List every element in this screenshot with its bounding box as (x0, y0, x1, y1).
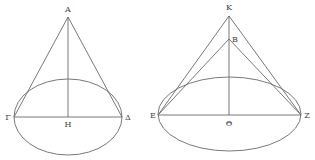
label-apex-a: A (64, 5, 71, 14)
left-cone-edge-a-delta (68, 17, 122, 117)
label-delta: Δ (125, 113, 131, 122)
label-gamma: Γ (5, 113, 11, 122)
label-center-h: H (65, 120, 72, 129)
right-cone-base-ellipse (158, 77, 301, 151)
right-cone-edge-k-z (229, 16, 301, 115)
left-cone-edge-a-gamma (14, 17, 68, 117)
label-apex-k: K (226, 3, 233, 12)
left-cone: A Γ H Δ (5, 5, 131, 155)
label-theta: Θ (226, 119, 233, 128)
label-z: Z (304, 111, 310, 120)
right-cone: K B E Θ Z (150, 3, 310, 151)
cone-diagram: A Γ H Δ K B E Θ Z (0, 0, 315, 160)
label-e: E (150, 111, 156, 120)
right-cone-edge-k-e (158, 16, 229, 115)
label-apex-b: B (232, 35, 238, 44)
